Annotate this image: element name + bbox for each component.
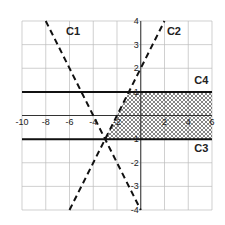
x-tick-label: -10 bbox=[15, 117, 28, 127]
x-tick-label: 4 bbox=[186, 117, 191, 127]
x-tick-label: -2 bbox=[113, 117, 121, 127]
y-tick-label: 4 bbox=[134, 16, 139, 26]
curve-label-c1: C1 bbox=[66, 25, 80, 37]
x-tick-label: -8 bbox=[42, 117, 50, 127]
y-tick-label: 2 bbox=[134, 63, 139, 73]
y-tick-label: 1 bbox=[134, 87, 139, 97]
y-tick-label: -2 bbox=[131, 158, 139, 168]
x-tick-label: 2 bbox=[162, 117, 167, 127]
curve-label-c2: C2 bbox=[167, 25, 181, 37]
y-tick-label: -4 bbox=[131, 205, 139, 215]
curve-label-c3: C3 bbox=[194, 142, 208, 154]
x-tick-label: 6 bbox=[209, 117, 214, 127]
x-tick-label: -4 bbox=[89, 117, 97, 127]
chart: -10-8-6-4-22464321-1-2-3-4 C1C2C4C3 bbox=[0, 0, 225, 225]
y-tick-label: 3 bbox=[134, 40, 139, 50]
x-tick-label: -6 bbox=[65, 117, 73, 127]
y-tick-label: -3 bbox=[131, 181, 139, 191]
y-tick-label: -1 bbox=[131, 134, 139, 144]
curve-label-c4: C4 bbox=[194, 74, 209, 86]
